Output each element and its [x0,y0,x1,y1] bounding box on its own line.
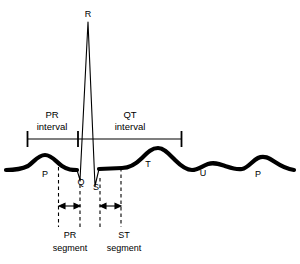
ecg-svg: P Q R S T U P PR interval QT interval PR… [0,0,300,264]
qt-interval-label-line2: interval [115,121,146,132]
ecg-st-t-u-p-waves [99,148,294,170]
label-t: T [145,159,151,169]
st-segment-label-line1: ST [118,230,130,240]
st-segment-arrow-left-head [100,203,106,208]
interval-bar-group [27,131,182,147]
st-segment-arrow-right-head [115,203,121,208]
st-segment-label-line2: segment [107,243,142,253]
wave-point-labels: P Q R S T U P [42,9,261,192]
qrs-complex [77,22,99,186]
pr-segment-label-line2: segment [53,243,88,253]
ecg-baseline-and-waves [6,155,77,170]
pr-segment-label-line1: PR [64,230,77,240]
interval-labels: PR interval QT interval [37,109,146,132]
label-p-second: P [255,169,261,179]
label-q: Q [77,177,84,187]
label-u: U [200,168,207,178]
pr-interval-label-line1: PR [45,109,58,120]
ecg-diagram: P Q R S T U P PR interval QT interval PR… [0,0,300,264]
qt-interval-label-line1: QT [123,109,136,120]
pr-segment-arrow-right-head [74,203,80,208]
segment-arrows [59,203,121,208]
pr-interval-label-line2: interval [37,121,68,132]
label-r: R [85,9,92,19]
label-s: S [93,182,99,192]
segment-guides [59,167,122,227]
label-p-first: P [42,169,48,179]
segment-labels: PR segment ST segment [53,230,142,253]
pr-segment-arrow-left-head [59,203,65,208]
